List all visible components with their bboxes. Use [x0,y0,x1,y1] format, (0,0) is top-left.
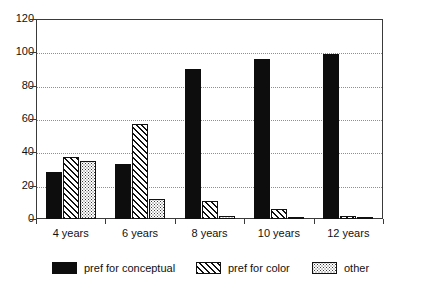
x-tick-mark [36,219,37,224]
x-tick-label: 12 years [314,227,383,239]
x-tick-mark [244,219,245,224]
bar [288,217,304,220]
legend-item: pref for conceptual [52,262,175,274]
bar [115,164,131,219]
x-tick-mark [314,219,315,224]
y-tick-label: 20 [0,180,34,191]
bar-group [46,19,96,219]
bar-groups-layer [36,19,383,219]
bar [46,172,62,219]
bar [132,124,148,219]
x-tick-label: 8 years [175,227,244,239]
bar [323,54,339,219]
bar [340,216,356,219]
bar-group [254,19,304,219]
bar [271,209,287,219]
legend-swatch [196,262,221,274]
y-tick-label: 60 [0,113,34,124]
legend-label: other [344,262,369,274]
bar [219,216,235,219]
x-tick-label: 4 years [36,227,105,239]
bar [202,201,218,219]
y-tick-label: 40 [0,146,34,157]
bar [80,161,96,219]
x-tick-mark [383,219,384,224]
legend-label: pref for conceptual [84,262,175,274]
x-tick-mark [175,219,176,224]
bar-group [185,19,235,219]
y-tick-label: 80 [0,80,34,91]
bar [63,157,79,219]
bar [185,69,201,219]
legend-item: other [312,262,369,274]
bar-chart-figure: 020406080100120 4 years6 years8 years10 … [0,0,424,289]
clipped-title-remnant [28,0,328,6]
legend-swatch [52,262,77,274]
y-tick-label: 120 [0,13,34,24]
chart-legend: pref for conceptualpref for colorother [0,262,424,286]
y-tick-label: 0 [0,213,34,224]
legend-swatch [312,262,337,274]
x-tick-mark [105,219,106,224]
bar [254,59,270,219]
y-tick-label: 100 [0,46,34,57]
legend-label: pref for color [228,262,290,274]
x-tick-label: 6 years [105,227,174,239]
legend-item: pref for color [196,262,290,274]
bar-group [115,19,165,219]
bar [149,199,165,219]
bar [357,217,373,220]
x-tick-label: 10 years [244,227,313,239]
bar-group [323,19,373,219]
